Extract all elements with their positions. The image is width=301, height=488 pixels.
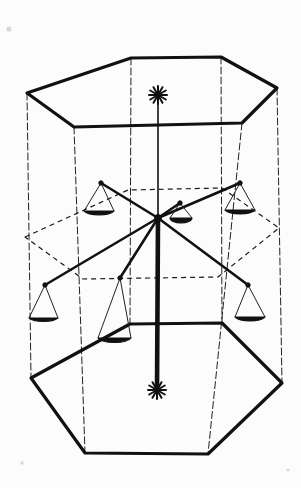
paper-background xyxy=(0,0,301,488)
pan-front-left-anchor xyxy=(43,283,47,287)
central-mast-lower xyxy=(157,218,158,390)
pan-front-near-anchor xyxy=(118,276,122,280)
figure-root xyxy=(0,0,301,488)
pan-front-right-anchor xyxy=(246,283,250,287)
paper-speck-bottom-right xyxy=(286,468,289,471)
paper-speck-bottom-left xyxy=(20,461,24,465)
paper-speck-top-left xyxy=(6,26,11,31)
pan-back-right-anchor xyxy=(238,181,242,185)
pan-back-left-anchor xyxy=(99,181,103,185)
central-hub xyxy=(155,215,162,222)
pan-short-right-anchor xyxy=(178,201,182,205)
hexagonal-prism-mobile-diagram xyxy=(0,0,301,488)
